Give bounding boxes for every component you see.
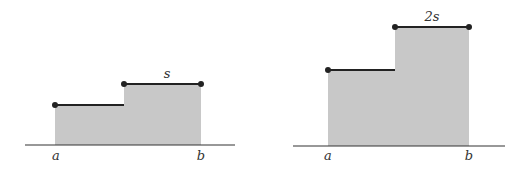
left-label-b: b [197, 148, 205, 163]
left-dot-upper-start [121, 81, 127, 87]
right-dot-upper-end [466, 24, 472, 30]
right-label-a: a [324, 148, 332, 163]
left-shaded-region [55, 84, 201, 145]
right-panel: a b 2s [293, 9, 505, 163]
left-panel: a b s [25, 66, 235, 163]
right-dot-upper-start [392, 24, 398, 30]
left-dot-upper-end [198, 81, 204, 87]
left-label-a: a [52, 148, 60, 163]
right-shaded-region [328, 27, 469, 146]
right-label-b: b [465, 148, 473, 163]
left-dot-lower-start [52, 102, 58, 108]
left-label-top: s [164, 66, 171, 81]
right-dot-lower-start [325, 67, 331, 73]
right-label-top: 2s [424, 9, 440, 24]
step-function-diagram: a b s a b 2s [0, 0, 527, 173]
